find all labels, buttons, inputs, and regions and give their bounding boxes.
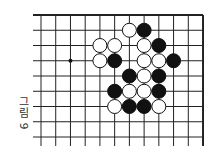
white-stone bbox=[137, 39, 151, 53]
black-stone bbox=[122, 69, 136, 83]
black-stone bbox=[152, 39, 166, 53]
go-board-diagram bbox=[0, 0, 216, 158]
caption-word: 그림 bbox=[16, 96, 28, 118]
board-grid bbox=[33, 15, 203, 146]
figure-caption: 그림 9 bbox=[12, 96, 32, 132]
white-stone bbox=[137, 84, 151, 98]
white-stone bbox=[93, 54, 107, 68]
caption-number: 9 bbox=[16, 123, 28, 130]
white-stone bbox=[122, 23, 136, 37]
star-point bbox=[68, 59, 72, 63]
white-stone bbox=[137, 54, 151, 68]
white-stone bbox=[122, 84, 136, 98]
star-points bbox=[68, 59, 72, 63]
white-stone bbox=[93, 39, 107, 53]
black-stone bbox=[152, 84, 166, 98]
black-stone bbox=[167, 54, 181, 68]
black-stone bbox=[108, 54, 122, 68]
white-stone bbox=[137, 69, 151, 83]
white-stone bbox=[152, 54, 166, 68]
black-stone bbox=[122, 100, 136, 114]
white-stone bbox=[108, 39, 122, 53]
white-stone bbox=[108, 100, 122, 114]
black-stone bbox=[152, 69, 166, 83]
black-stone bbox=[137, 100, 151, 114]
white-stone bbox=[152, 100, 166, 114]
black-stone bbox=[108, 84, 122, 98]
stones-layer bbox=[93, 23, 181, 113]
black-stone bbox=[137, 23, 151, 37]
